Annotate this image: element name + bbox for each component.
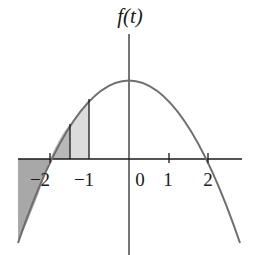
tick-label-1: 1 [163,169,173,190]
tick-label-2: 2 [203,169,213,190]
shaded-region-light [70,99,89,159]
tick-label-neg2: −2 [30,169,50,190]
y-axis-label: f(t) [117,4,143,28]
tick-label-0: 0 [135,169,145,190]
tick-label-neg1: −1 [74,169,94,190]
graph: −2 −1 0 1 2 f(t) [0,0,260,255]
